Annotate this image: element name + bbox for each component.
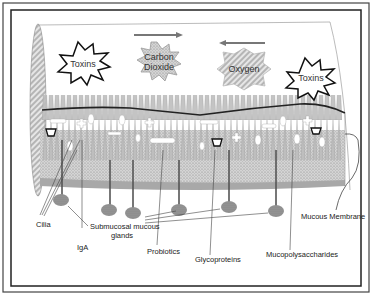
label-iga: IgA: [77, 243, 88, 252]
iga-cup-icon: [46, 129, 56, 136]
gland-icon: [125, 207, 141, 219]
label-cilia: Cilia: [36, 220, 51, 229]
carbon-dioxide-shape: Carbon Dioxide: [134, 32, 183, 81]
iga-cup-icon: [212, 139, 222, 146]
gland-icon: [268, 205, 284, 217]
label-submucosal-glands-2: glands: [111, 231, 133, 240]
diagram-canvas: Toxins Carbon Dioxide Oxygen Toxins Cili…: [0, 0, 372, 295]
glycoprotein-rect: [200, 120, 218, 124]
svg-text:Dioxide: Dioxide: [144, 62, 174, 72]
glycoprotein-rect: [262, 124, 276, 128]
label-glycoproteins: Glycoproteins: [195, 255, 241, 264]
arrow-right-icon: [176, 32, 183, 38]
toxins-left-shape: Toxins: [58, 42, 110, 85]
gland-icon: [53, 194, 69, 206]
gland-icon: [101, 204, 117, 216]
gland-icon: [221, 201, 237, 213]
svg-text:Oxygen: Oxygen: [228, 64, 259, 74]
label-submucosal-glands: Submucosal mucous: [90, 222, 160, 231]
glycoprotein-rect: [150, 138, 175, 143]
label-mucopolysaccharides: Mucopolysaccharides: [266, 250, 338, 259]
iga-cup-icon: [311, 128, 321, 134]
label-mucous-membrane: Mucous Membrane: [301, 212, 365, 221]
label-probiotics: Probiotics: [147, 247, 180, 256]
svg-text:Carbon: Carbon: [144, 52, 174, 62]
svg-text:Toxins: Toxins: [70, 59, 96, 69]
glycoprotein-rect: [50, 119, 66, 123]
glycoprotein-rect: [108, 132, 121, 135]
oxygen-shape: Oxygen: [217, 40, 271, 90]
svg-text:Toxins: Toxins: [298, 73, 324, 83]
arrow-left-icon: [219, 40, 226, 46]
toxins-right-shape: Toxins: [286, 58, 335, 100]
